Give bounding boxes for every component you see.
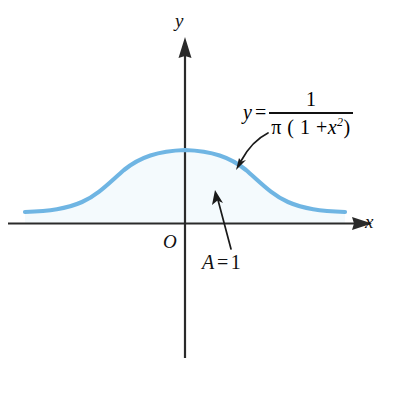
cauchy-density-plot [0,0,396,394]
fraction-numerator: 1 [300,88,322,112]
denominator-variable: x [328,116,337,138]
area-equals: = [217,251,229,273]
x-axis-label: x [365,212,373,231]
y-axis-label: y [175,11,183,30]
equation-equals-sign: = [255,101,266,126]
area-value: 1 [231,251,242,273]
denominator-prefix: π ( 1 + [271,116,328,138]
denominator-suffix: ) [344,116,351,138]
fraction-denominator: π ( 1 +x2) [269,114,353,139]
origin-label: O [163,232,177,251]
equation-lhs: y [243,101,252,126]
figure-container: y x O A = 1 y = 1 π ( 1 +x2) [0,0,396,394]
area-annotation: A = 1 [202,252,241,272]
curve-equation-annotation: y = 1 π ( 1 +x2) [243,88,353,139]
area-symbol: A [202,251,215,273]
equation-fraction: 1 π ( 1 +x2) [269,88,353,139]
y-axis-arrowhead [179,37,192,58]
